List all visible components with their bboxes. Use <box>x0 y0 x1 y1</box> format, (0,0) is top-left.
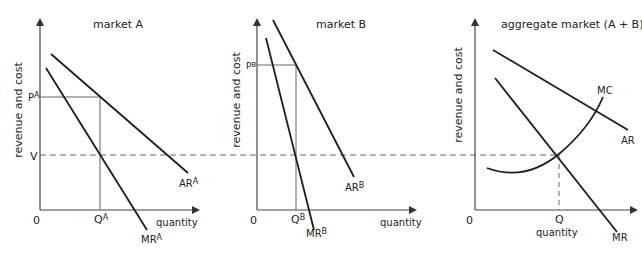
mr-label: MR <box>612 232 628 243</box>
mc-curve <box>487 97 603 173</box>
x-axis-label: quantity <box>380 217 422 228</box>
quantity-a-label: QA <box>94 213 109 226</box>
panel-market-a: market A revenue and cost 0 quantity PA … <box>12 18 199 245</box>
panel-title: market B <box>316 18 366 31</box>
origin-label: 0 <box>466 214 473 227</box>
mc-label: MC <box>597 85 613 96</box>
panel-title: aggregate market (A + B) <box>501 18 642 31</box>
y-axis-label: revenue and cost <box>452 47 465 143</box>
ar-b-label: ARB <box>345 181 364 193</box>
price-a-label: PA <box>28 91 40 103</box>
y-axis-label: revenue and cost <box>230 52 243 148</box>
quantity-b-label: QB <box>291 213 305 226</box>
origin-label: 0 <box>250 214 257 227</box>
panel-title: market A <box>93 18 144 31</box>
v-label: V <box>30 150 38 163</box>
y-axis-label: revenue and cost <box>12 62 25 158</box>
quantity-label: Q <box>555 213 564 226</box>
mr-b-label: MRB <box>306 227 327 239</box>
third-degree-price-discrimination-diagram: market A revenue and cost 0 quantity PA … <box>0 0 642 255</box>
price-b-label: PB <box>246 61 256 71</box>
x-axis-label: quantity <box>536 227 578 238</box>
panel-market-b: market B revenue and cost 0 quantity PB … <box>230 18 422 239</box>
ar-label: AR <box>621 135 635 146</box>
mr-b-curve <box>266 38 314 230</box>
mr-a-curve <box>46 68 147 230</box>
origin-label: 0 <box>33 214 40 227</box>
panel-aggregate-market: aggregate market (A + B) revenue and cos… <box>452 18 642 243</box>
ar-a-label: ARA <box>179 177 199 189</box>
x-axis-label: quantity <box>156 217 198 228</box>
ar-b-curve <box>273 20 354 177</box>
mr-a-label: MRA <box>141 233 163 245</box>
